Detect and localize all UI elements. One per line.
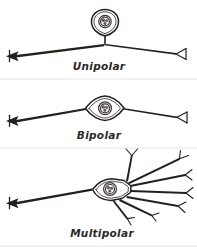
multipolar-label: Multipolar (70, 227, 134, 239)
bipolar-right-fork-lower (177, 117, 187, 123)
multipolar-dendrite-1 (126, 155, 133, 182)
bipolar-nucleolus-c (104, 109, 106, 111)
unipolar-nucleolus-c (104, 22, 106, 24)
multipolar-axon (16, 189, 92, 205)
multipolar-dendrite-5-fork-lower (178, 206, 185, 213)
multipolar-dendrite-5-fork-upper (178, 202, 186, 206)
multipolar-nucleolus-a (107, 186, 110, 189)
multipolar-neuron: Multipolar (6, 149, 193, 239)
multipolar-dendrite-3 (130, 174, 185, 187)
unipolar-label: Unipolar (73, 60, 126, 72)
multipolar-dendrite-7-fork-lower (127, 219, 131, 225)
unipolar-right-fork-upper (176, 49, 186, 55)
neuron-types-figure: Unipolar Bipolar (0, 0, 197, 249)
multipolar-dendrite-4-fork-upper (186, 188, 193, 194)
bipolar-nucleolus-a (102, 106, 105, 109)
bipolar-right-process (123, 108, 177, 118)
bipolar-label: Bipolar (77, 129, 122, 141)
unipolar-right-fork-lower (176, 54, 186, 60)
multipolar-nucleolus-b (110, 187, 112, 189)
multipolar-dendrite-1-fork-left (126, 149, 132, 156)
multipolar-dendrite-2-fork-lower (179, 156, 188, 159)
bipolar-right-fork-upper (177, 112, 187, 117)
multipolar-dendrite-5 (127, 196, 179, 207)
unipolar-right-process (106, 44, 176, 55)
unipolar-left-process (16, 44, 104, 58)
multipolar-nucleolus-c (109, 190, 111, 192)
unipolar-nucleolus-b (106, 19, 108, 21)
bipolar-neuron: Bipolar (6, 96, 187, 141)
multipolar-dendrite-6-fork-lower (152, 215, 156, 221)
multipolar-dendrite-3-fork-upper (185, 170, 192, 176)
neuron-diagram-canvas: Unipolar Bipolar (0, 0, 197, 249)
unipolar-nucleolus-a (102, 19, 105, 22)
unipolar-neuron: Unipolar (6, 10, 186, 73)
multipolar-dendrite-7-fork-upper (127, 218, 134, 219)
multipolar-dendrite-4-fork-lower (186, 193, 193, 199)
multipolar-dendrite-2-fork-upper (179, 151, 180, 159)
multipolar-dendrite-3-fork-lower (185, 175, 192, 180)
multipolar-dendrite-4 (131, 190, 186, 194)
bipolar-left-process (16, 108, 86, 122)
multipolar-dendrite-1-fork-right (132, 149, 138, 156)
bipolar-nucleolus-b (105, 106, 107, 108)
multipolar-dendrite-6-fork-upper (152, 213, 159, 215)
